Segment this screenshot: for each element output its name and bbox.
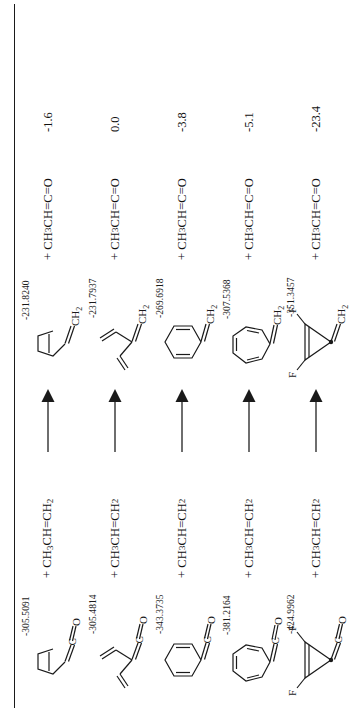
relative-energy: -5.1 [242, 70, 257, 142]
relative-energy: -23.4 [309, 70, 324, 142]
reactant-structure: C O F F -424.9962 [287, 578, 345, 704]
methylene-atom-label: CH2 [271, 306, 286, 325]
coreactant-label: + CH3CH=CH2 [109, 460, 122, 578]
carbon-atom-label: C [133, 636, 145, 643]
reactant-structure: C O -305.5091 [19, 578, 77, 704]
reactant-energy: -381.2164 [222, 595, 232, 635]
reaction-row: C O -343.3735 + CH3CH=CH2 [152, 8, 212, 704]
carbon-atom-label: C [201, 636, 213, 643]
cyclopentene-ketene-structure: C O -305.5091 [19, 582, 77, 690]
methylene-atom-label: CH2 [69, 307, 84, 326]
methylene-cycloheptatriene-structure: CH2 -307.5368 [220, 264, 278, 372]
fluorine-atom-label: F [286, 372, 298, 378]
byproduct-label: + CH3CH=C=O [243, 142, 256, 260]
methylene-difluorocyclopropene-structure: CH2 F F -351.3457 [287, 264, 345, 372]
reaction-row: C O -305.5091 + CH3CH=CH2 [18, 8, 78, 704]
product-structure: CH2 F F -351.3457 [287, 260, 345, 382]
reactant-structure: C O -381.2164 [220, 578, 278, 704]
methylene-atom-label: CH2 [335, 305, 350, 324]
reactant-energy: -305.5091 [21, 596, 31, 636]
carbon-atom-label: C [332, 636, 344, 643]
reaction-row: C O F F -424.9962 + CH3CH=CH2 [286, 8, 346, 704]
product-structure: CH2 -231.8240 [19, 260, 77, 382]
methylene-atom-label: CH2 [204, 305, 219, 324]
divinyl-methylene-structure: CH2 -231.7937 [86, 264, 144, 372]
product-structure: CH2 -231.7937 [86, 260, 144, 382]
coreactant-label: + CH3CH=CH2 [243, 460, 256, 578]
oxygen-atom-label: O [70, 618, 82, 626]
coreactant-label: + CH3CH=CH2 [176, 460, 189, 578]
reactant-energy: -305.4814 [88, 594, 98, 634]
reaction-arrow [306, 382, 326, 460]
oxygen-atom-label: O [272, 617, 284, 625]
reaction-arrow [38, 382, 58, 460]
reactant-structure: C O -343.3735 [153, 578, 211, 704]
cycloheptatriene-ketene-structure: C O -381.2164 [220, 582, 278, 690]
coreactant-label: + CH3CH=CH2 [41, 460, 55, 578]
byproduct-label: + CH3CH=C=O [42, 142, 55, 260]
carbon-atom-label: C [269, 637, 281, 644]
relative-energy: 0.0 [108, 70, 123, 142]
cyclohexadiene-ketene-structure: C O -343.3735 [153, 582, 211, 690]
product-energy: -231.7937 [88, 278, 98, 318]
byproduct-label: + CH3CH=C=O [176, 142, 189, 260]
coreactant-label: + CH3CH=CH2 [310, 460, 323, 578]
difluorocyclopropene-ketene-structure: C O F F -424.9962 [287, 582, 345, 690]
methylene-cyclopentene-structure: CH2 -231.8240 [19, 264, 77, 372]
reactant-structure: C O -305.4814 [86, 578, 144, 704]
product-energy: -307.5368 [222, 279, 232, 319]
byproduct-label: + CH3CH=C=O [310, 142, 323, 260]
oxygen-atom-label: O [205, 616, 217, 624]
relative-energy: -1.6 [41, 70, 56, 142]
byproduct-label: + CH3CH=C=O [109, 142, 122, 260]
scheme-stage: C O -305.5091 + CH3CH=CH2 [0, 0, 360, 714]
divinyl-ketene-structure: C O -305.4814 [86, 582, 144, 690]
reactant-energy: -424.9962 [286, 594, 296, 634]
product-energy: -231.8240 [21, 280, 31, 320]
methylene-atom-label: CH2 [136, 305, 151, 324]
oxygen-atom-label: O [137, 616, 149, 624]
methylene-cyclohexadiene-structure: CH2 -269.6918 [153, 264, 211, 372]
reaction-arrow [239, 382, 259, 460]
product-structure: CH2 -307.5368 [220, 260, 278, 382]
reactant-energy: -343.3735 [155, 594, 165, 634]
reaction-row: C O -381.2164 + CH3CH=CH2 [219, 8, 279, 704]
product-structure: CH2 -269.6918 [153, 260, 211, 382]
relative-energy: -3.8 [175, 70, 190, 142]
reaction-row: C O -305.4814 + CH3CH=CH2 [85, 8, 145, 704]
carbon-atom-label: C [66, 638, 78, 645]
product-energy: -351.3457 [286, 277, 296, 317]
reaction-arrow [172, 382, 192, 460]
product-energy: -269.6918 [155, 278, 165, 318]
fluorine-atom-label: F [286, 690, 298, 696]
reaction-arrow [105, 382, 125, 460]
reaction-scheme: C O -305.5091 + CH3CH=CH2 [0, 0, 360, 714]
oxygen-atom-label: O [336, 616, 348, 624]
